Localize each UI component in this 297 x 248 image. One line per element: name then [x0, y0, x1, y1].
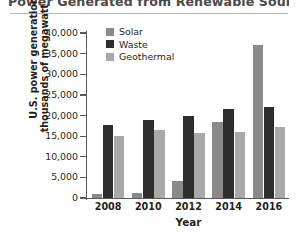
- legend-swatch-icon: [106, 40, 114, 48]
- y-axis-tick-label: 10,000: [4, 151, 78, 162]
- y-axis-line: [86, 31, 87, 200]
- y-axis-tick-label: 15,000: [4, 130, 78, 141]
- x-axis-tick-label: 2012: [168, 201, 208, 212]
- legend-swatch-icon: [106, 28, 114, 36]
- y-axis-title-line1: U.S. power generation (in: [28, 0, 39, 119]
- bar-waste-2016[interactable]: [264, 107, 275, 198]
- bar-waste-2008[interactable]: [103, 125, 114, 198]
- legend-item-waste[interactable]: Waste: [106, 39, 174, 50]
- legend-item-solar[interactable]: Solar: [106, 26, 174, 37]
- x-axis-tick-label: 2008: [88, 201, 128, 212]
- legend-label: Geothermal: [119, 51, 174, 62]
- y-axis-tick: [80, 156, 86, 157]
- x-axis-tick-label: 2010: [128, 201, 168, 212]
- y-axis-tick-label: 5,000: [4, 171, 78, 182]
- y-axis-tick: [80, 32, 86, 33]
- bar-solar-2016[interactable]: [253, 45, 264, 198]
- legend-label: Solar: [119, 26, 143, 37]
- y-axis-tick: [80, 177, 86, 178]
- x-axis-title: Year: [88, 216, 289, 228]
- bar-geothermal-2012[interactable]: [194, 133, 205, 198]
- bar-waste-2010[interactable]: [143, 120, 154, 198]
- y-axis-tick-label: 30,000: [4, 68, 78, 79]
- chart-figure: Power Generated from Renewable Sources U…: [0, 0, 297, 248]
- y-axis-tick: [80, 53, 86, 54]
- y-axis-tick: [80, 74, 86, 75]
- y-axis-tick: [80, 94, 86, 95]
- y-axis-tick: [80, 136, 86, 137]
- bar-solar-2014[interactable]: [212, 122, 223, 198]
- bar-geothermal-2008[interactable]: [114, 136, 125, 198]
- legend-swatch-icon: [106, 53, 114, 61]
- bar-group: [212, 33, 245, 198]
- bar-geothermal-2014[interactable]: [235, 132, 246, 198]
- legend-label: Waste: [119, 39, 148, 50]
- y-axis-tick-label: 20,000: [4, 110, 78, 121]
- y-axis-tick-label: 35,000: [4, 48, 78, 59]
- x-axis-line: [86, 198, 289, 199]
- y-axis-tick: [80, 115, 86, 116]
- bar-waste-2012[interactable]: [183, 116, 194, 199]
- bar-geothermal-2010[interactable]: [154, 130, 165, 198]
- bar-geothermal-2016[interactable]: [275, 127, 286, 198]
- bar-group: [253, 33, 286, 198]
- x-axis-tick-label: 2014: [209, 201, 249, 212]
- bar-group: [172, 33, 205, 198]
- bar-solar-2008[interactable]: [92, 194, 103, 198]
- y-axis-tick-label: 0: [4, 192, 78, 203]
- x-axis-tick-label: 2016: [249, 201, 289, 212]
- chart-legend: SolarWasteGeothermal: [106, 26, 174, 64]
- bar-waste-2014[interactable]: [223, 109, 234, 198]
- legend-item-geothermal[interactable]: Geothermal: [106, 51, 174, 62]
- y-axis-tick-label: 25,000: [4, 89, 78, 100]
- y-axis-tick-label: 40,000: [4, 27, 78, 38]
- bar-solar-2012[interactable]: [172, 181, 183, 198]
- y-axis-tick: [80, 197, 86, 198]
- bar-solar-2010[interactable]: [132, 193, 143, 198]
